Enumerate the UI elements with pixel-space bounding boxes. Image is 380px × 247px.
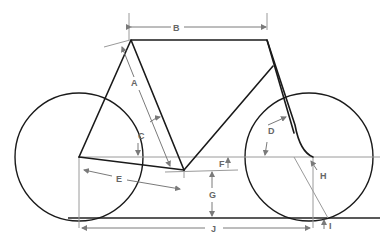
dim-e-left (84, 170, 112, 176)
dim-h-arrow (311, 161, 317, 170)
bb-line (165, 170, 238, 172)
label-d: D (268, 126, 275, 136)
chain-stay (79, 157, 184, 170)
dim-a-top (122, 47, 134, 77)
label-g: G (209, 190, 216, 200)
bike-geometry-diagram: B A C D E F G H I J (0, 0, 380, 247)
seat-tube (131, 40, 184, 170)
label-c: C (138, 131, 145, 141)
label-e: E (116, 174, 122, 184)
label-b: B (173, 23, 180, 33)
fork (267, 40, 313, 157)
down-tube (184, 66, 273, 170)
label-i: I (329, 221, 332, 231)
steering-axis-extension (294, 157, 328, 218)
angle-d-arc (268, 117, 286, 125)
label-j: J (211, 224, 216, 234)
label-f: F (219, 159, 225, 169)
label-a: A (131, 78, 138, 88)
saddle-mark (104, 40, 130, 47)
angle-d-arrow (265, 142, 267, 155)
label-h: H (320, 171, 327, 181)
frame-top (79, 40, 294, 157)
